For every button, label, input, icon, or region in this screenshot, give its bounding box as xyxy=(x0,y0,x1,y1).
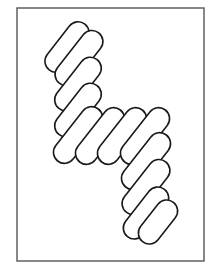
oval-chain xyxy=(40,17,182,248)
figure-canvas xyxy=(0,0,214,269)
